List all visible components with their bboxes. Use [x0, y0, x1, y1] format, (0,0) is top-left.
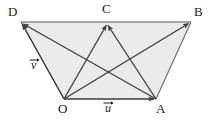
vector-diagram-figure: D C B O A v u — [0, 0, 211, 121]
vector-label-u-text: u — [105, 101, 111, 115]
trapezoid-fill — [21, 22, 191, 99]
vertex-label-O: O — [58, 102, 67, 115]
vertex-label-D: D — [8, 5, 17, 18]
vertex-label-C: C — [102, 2, 111, 15]
vertex-label-B: B — [194, 5, 203, 18]
vector-label-u: u — [105, 101, 111, 114]
vertex-label-A: A — [156, 102, 165, 115]
vector-label-v: v — [31, 58, 36, 71]
vector-label-v-text: v — [31, 58, 36, 72]
